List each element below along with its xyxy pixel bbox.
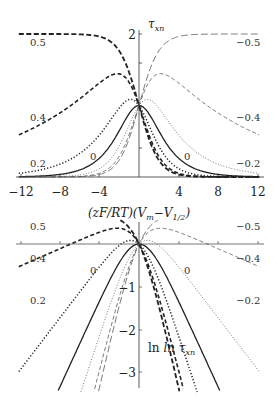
y-tick-label: −1	[118, 281, 136, 295]
y-tick-label: −3	[118, 366, 136, 380]
figure: −12 −8 −4 4 8 12 2 τxn 0.5 0.4 0.2 0 −0.…	[0, 0, 279, 404]
x-tick-label: −4	[90, 185, 108, 199]
curve-label: 0.4	[30, 253, 46, 264]
curve-label: 0	[184, 151, 190, 162]
curve-label: −0.2	[236, 295, 260, 306]
curve-label: 0.5	[30, 37, 46, 48]
x-axis-title: (zF/RT)(Vm−V1/2)	[88, 206, 190, 222]
top-plot: −12 −8 −4 4 8 12 2 τxn 0.5 0.4 0.2 0 −0.…	[8, 17, 265, 199]
bottom-plot: −1 −2 −3 ln ln τxn 0.5 0.4 0.2 0 −0.5 −0…	[16, 220, 264, 392]
curve-label: −0.2	[236, 158, 260, 169]
y-tick-label: 2	[128, 28, 136, 42]
curve-label: 0.2	[30, 295, 46, 306]
curve-label: 0.2	[30, 158, 46, 169]
curve-label: 0.4	[30, 112, 46, 123]
x-tick-label: −12	[8, 185, 33, 199]
x-tick-label: 12	[250, 185, 265, 199]
curve-label: −0.4	[236, 253, 260, 264]
curve-label: 0.5	[30, 221, 46, 232]
y-tick-label: −2	[118, 324, 136, 338]
x-tick-label: 8	[214, 185, 222, 199]
bottom-ticks	[21, 241, 258, 372]
x-tick-label: 4	[175, 185, 183, 199]
x-tick-label: −8	[51, 185, 69, 199]
series-line--0.2	[81, 241, 259, 392]
bottom-y-axis-title: ln ln τxn	[148, 341, 195, 357]
curve-label: −0.5	[236, 221, 260, 232]
curve-label: −0.5	[236, 37, 260, 48]
curve-label: 0	[90, 151, 96, 162]
curve-label: 0	[90, 265, 96, 276]
curve-label: 0	[184, 265, 190, 276]
curve-label: −0.4	[236, 112, 260, 123]
top-y-axis-title: τxn	[148, 17, 164, 33]
